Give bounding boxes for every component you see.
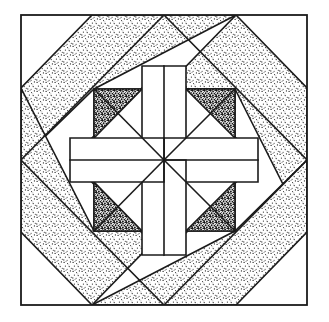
quilt-block-figure: Quilt Block Pattern Square quilt block l… xyxy=(0,0,329,322)
quilt-block-drawing: Quilt Block Pattern Square quilt block l… xyxy=(0,0,329,322)
center-radials xyxy=(70,66,258,255)
